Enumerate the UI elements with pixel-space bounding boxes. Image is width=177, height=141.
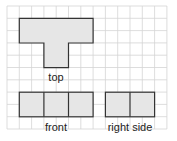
top-view-shape: [19, 18, 93, 67]
orthographic-views-diagram: [0, 0, 177, 141]
top-view-label: top: [48, 72, 63, 83]
right-side-view-shape: [105, 92, 154, 117]
front-view-label: front: [45, 122, 67, 133]
front-view-shape: [19, 92, 93, 117]
right-side-view-label: right side: [108, 122, 153, 133]
